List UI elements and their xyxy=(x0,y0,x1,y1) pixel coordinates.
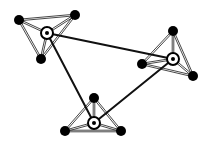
node-G xyxy=(89,93,99,103)
graph-svg xyxy=(0,0,209,144)
hub-node-H1 xyxy=(41,27,53,39)
hub-node-H2 xyxy=(167,53,179,65)
cluster-graph-diagram xyxy=(0,0,209,144)
hub-edge-H1-H3 xyxy=(47,33,94,123)
edge-C-A xyxy=(18,20,40,59)
node-F xyxy=(188,71,198,81)
node-E xyxy=(137,59,147,69)
node-B xyxy=(70,10,80,20)
node-J xyxy=(116,126,126,136)
hub-edges xyxy=(47,33,173,123)
node-C xyxy=(36,54,46,64)
node-D xyxy=(168,26,178,36)
node-A xyxy=(14,15,24,25)
edge-E-F xyxy=(142,63,193,75)
hub-edge-H1-H2 xyxy=(47,33,173,59)
node-I xyxy=(60,126,70,136)
hub-edge-H3-H2 xyxy=(94,59,173,123)
hub-nodes xyxy=(41,27,179,129)
edge-C-A xyxy=(20,20,42,59)
hub-node-H3 xyxy=(88,117,100,129)
